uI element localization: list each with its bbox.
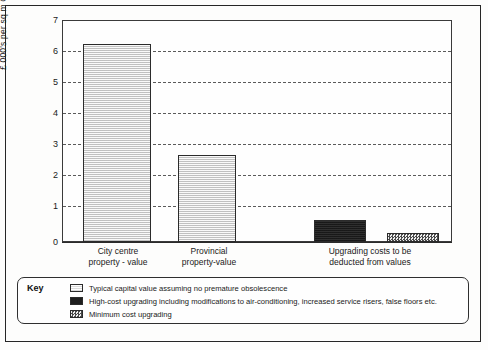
category-label-provincial-line1: Provincial	[166, 246, 252, 257]
category-label-upgrading-costs-line2: deducted from values	[305, 257, 435, 268]
category-label-provincial: Provincial property-value	[166, 246, 252, 268]
category-label-city-centre-line2: property - value	[75, 257, 161, 268]
legend-box: Key Typical capital value assuming no pr…	[17, 277, 469, 324]
legend-label-typical-capital-value: Typical capital value assuming no premat…	[89, 283, 287, 294]
y-tick-label-2: 2	[36, 171, 58, 180]
bar-provincial-value	[178, 155, 236, 242]
y-tick-label-3: 3	[36, 140, 58, 149]
y-tick-label-5: 5	[36, 78, 58, 87]
legend-swatch-checkered-icon	[70, 310, 83, 318]
legend-swatch-light-hatch-icon	[70, 284, 83, 292]
x-axis-baseline	[62, 242, 452, 243]
category-label-city-centre: City centre property - value	[75, 246, 161, 268]
category-label-upgrading-costs: Upgrading costs to be deducted from valu…	[305, 246, 435, 268]
y-tick-label-7: 7	[36, 16, 58, 25]
legend-title: Key	[27, 283, 44, 293]
y-tick-label-6: 6	[36, 47, 58, 56]
legend-swatch-solid-black-icon	[70, 297, 83, 305]
y-tick-label-4: 4	[36, 109, 58, 118]
legend-label-minimum-cost-upgrading: Minimum cost upgrading	[89, 309, 172, 320]
chart-page: £ 000's per sq m GIA 7 6 5 4 3 2 1 0 Cit…	[0, 0, 488, 350]
y-tick-label-0: 0	[36, 238, 58, 247]
bar-high-cost-upgrading	[314, 220, 366, 242]
bar-city-centre-value	[83, 44, 151, 242]
category-label-provincial-line2: property-value	[166, 257, 252, 268]
y-tick-label-1: 1	[36, 202, 58, 211]
category-label-city-centre-line1: City centre	[75, 246, 161, 257]
bar-minimum-cost-upgrading	[387, 233, 439, 242]
legend-label-high-cost-upgrading: High-cost upgrading including modificati…	[89, 296, 437, 307]
category-label-upgrading-costs-line1: Upgrading costs to be	[305, 246, 435, 257]
y-axis-title: £ 000's per sq m GIA	[0, 0, 8, 70]
